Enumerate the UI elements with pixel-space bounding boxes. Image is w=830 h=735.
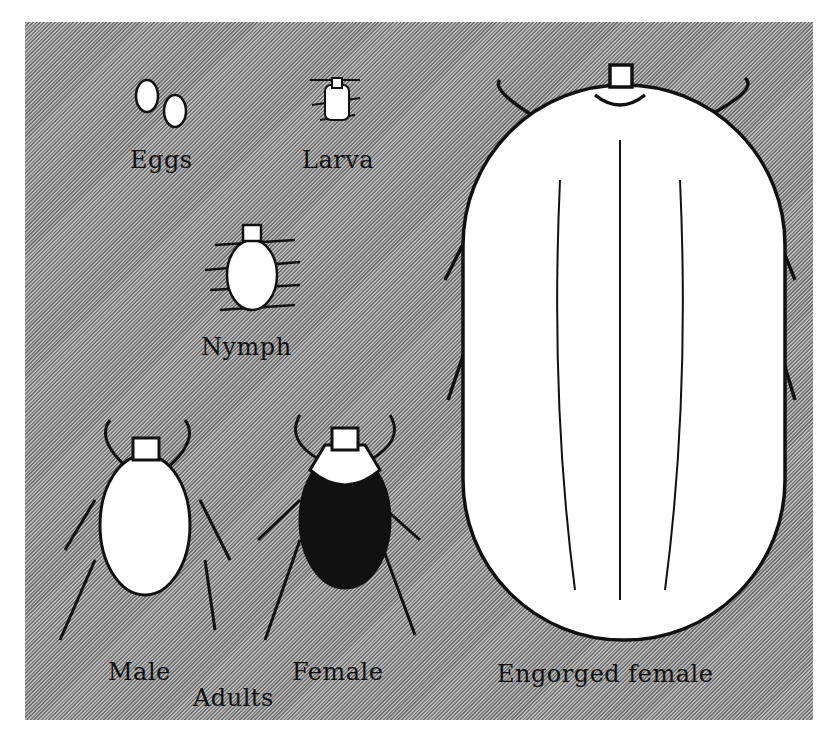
female-label: Female: [292, 658, 384, 686]
nymph-icon: [205, 225, 300, 310]
male-label: Male: [108, 658, 171, 686]
tick-drawings: [0, 0, 830, 735]
eggs-label: Eggs: [130, 146, 193, 174]
tick-life-cycle-illustration: Eggs Larva Nymph Male Female Adults Engo…: [0, 0, 830, 735]
female-tick-icon: [258, 415, 420, 640]
engorged-female-label: Engorged female: [497, 660, 713, 688]
engorged-female-icon: [445, 65, 795, 640]
larva-label: Larva: [302, 146, 374, 174]
nymph-label: Nymph: [201, 333, 292, 361]
larva-icon: [310, 78, 360, 120]
eggs-icon: [136, 80, 186, 127]
male-tick-icon: [60, 420, 230, 640]
adults-label: Adults: [193, 684, 274, 712]
